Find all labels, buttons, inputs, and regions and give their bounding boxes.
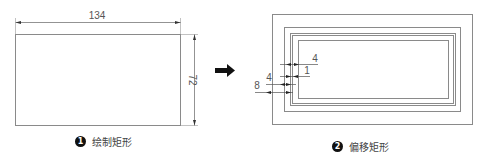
figure2-caption-text: 偏移矩形 — [349, 139, 389, 154]
height-dimension: 72 — [181, 35, 198, 126]
step-number-badge: 2 — [332, 141, 343, 152]
width-dimension: 134 — [16, 10, 182, 34]
offset-dimensions: 4 1 4 8 — [254, 53, 318, 94]
right-arrow-icon — [215, 64, 235, 77]
offset-rectangle-8 — [273, 15, 473, 125]
step-number-badge: 1 — [75, 136, 86, 147]
figure1-caption-text: 绘制矩形 — [92, 134, 132, 149]
offset-rectangle-1 — [291, 34, 456, 106]
figure1-drawing: 134 72 — [16, 10, 199, 126]
offset-label-4-mid: 4 — [266, 72, 272, 83]
base-rectangle — [299, 41, 449, 99]
diagram-canvas: 134 72 4 — [0, 0, 488, 156]
figure2-drawing: 4 1 4 8 — [254, 15, 472, 125]
figure1-caption: 1 绘制矩形 — [75, 134, 132, 149]
width-dimension-label: 134 — [89, 10, 106, 21]
height-dimension-label: 72 — [187, 74, 198, 86]
offset-label-1: 1 — [304, 65, 310, 76]
figure2-caption: 2 偏移矩形 — [332, 139, 389, 154]
offset-label-4-top: 4 — [312, 53, 318, 64]
offset-label-8: 8 — [254, 80, 260, 91]
original-rectangle — [16, 35, 181, 126]
offset-rectangle-4b — [293, 36, 454, 104]
